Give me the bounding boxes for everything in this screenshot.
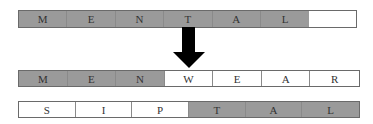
letter-cell: T [189,102,246,117]
letter-cell: M [19,71,68,86]
letter-cell: P [132,102,189,117]
letter-cell: L [302,102,359,117]
letter-cell: A [213,11,261,27]
letter-cell: M [19,11,67,27]
letter-cell: N [116,11,164,27]
source-word-mental: M E N T A L [18,10,357,28]
letter-cell: E [68,71,117,86]
result-word-menwear: M E N W E A R [18,70,360,87]
letter-cell: A [246,102,303,117]
letter-cell: T [164,11,212,27]
result-word-siptal: S I P T A L [18,101,360,118]
down-arrow-icon [173,27,205,68]
letter-cell: I [76,102,133,117]
letter-cell: N [116,71,165,86]
letter-cell: S [19,102,76,117]
letter-cell: R [310,71,359,86]
letter-cell: E [67,11,115,27]
letter-cell: E [213,71,262,86]
letter-cell: W [165,71,214,86]
letter-cell: L [261,11,309,27]
letter-cell: A [262,71,311,86]
